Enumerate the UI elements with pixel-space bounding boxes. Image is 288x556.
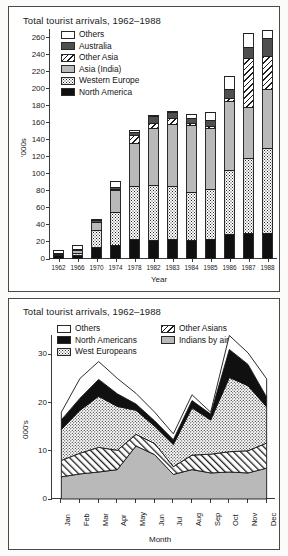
bottom-x-tick — [247, 499, 248, 503]
bottom-x-tick — [135, 499, 136, 503]
top-y-tick-label: 100 — [15, 170, 45, 178]
table-row[interactable] — [91, 29, 103, 259]
top-y-tick — [46, 190, 50, 191]
top-y-tick — [46, 259, 50, 260]
top-y-tick — [46, 241, 50, 242]
table-row[interactable] — [129, 29, 141, 259]
bar-segment-western-europe — [224, 170, 236, 235]
bar-segment-australia — [243, 47, 255, 58]
top-y-tick — [46, 173, 50, 174]
top-x-tick — [211, 259, 212, 262]
bar-segment-others — [129, 130, 141, 132]
figure-page: Total tourist arrivals, 1962–1988 Others… — [0, 0, 288, 556]
bar-segment-asia-india — [72, 250, 84, 253]
bar-segment-asia-india — [129, 143, 141, 186]
bottom-x-axis-label: Month — [149, 535, 171, 544]
bar-segment-western-europe — [148, 185, 160, 240]
table-row[interactable] — [148, 29, 160, 259]
bar-segment-western-europe — [186, 192, 198, 241]
bar-segment-western-europe — [110, 212, 122, 244]
top-x-tick — [173, 259, 174, 262]
top-y-tick-label: 200 — [15, 85, 45, 93]
bar-segment-australia — [110, 187, 122, 190]
top-y-tick-label: 60 — [15, 204, 45, 212]
bottom-x-tick-label: Jun — [157, 514, 166, 526]
bar-segment-asia-india — [167, 124, 179, 185]
bar-segment-western-europe — [167, 186, 179, 240]
bar-segment-other-asia — [167, 118, 179, 125]
top-y-tick-label: 220 — [15, 68, 45, 76]
top-x-tick — [192, 259, 193, 262]
table-row[interactable] — [186, 29, 198, 259]
bar-segment-australia — [72, 249, 84, 250]
table-row[interactable] — [72, 29, 84, 259]
table-row[interactable] — [167, 29, 179, 259]
bottom-y-tick — [48, 499, 52, 500]
top-y-tick-label: 240 — [15, 51, 45, 59]
bar-segment-north-america — [224, 234, 236, 259]
bar-segment-australia — [129, 132, 141, 135]
bottom-x-tick-label: Mar — [101, 513, 110, 526]
table-row[interactable] — [243, 29, 255, 259]
bar-segment-north-america — [91, 247, 103, 259]
bottom-area-series-group — [52, 335, 276, 499]
bottom-y-tick-label: 10 — [19, 447, 47, 455]
bar-segment-other-asia — [262, 56, 274, 88]
bar-segment-other-asia — [110, 189, 122, 190]
top-y-tick-label: 160 — [15, 119, 45, 127]
bar-segment-other-asia — [129, 135, 141, 143]
bottom-x-tick-label: Dec — [269, 513, 278, 526]
bottom-y-tick — [48, 354, 52, 355]
bar-segment-north-america — [110, 245, 122, 259]
bar-segment-north-america — [148, 240, 160, 259]
bar-segment-asia-india — [110, 190, 122, 212]
bar-segment-others — [167, 111, 179, 113]
bar-segment-western-europe — [129, 186, 141, 239]
bar-segment-other-asia — [186, 123, 198, 126]
bottom-x-tick — [191, 499, 192, 503]
bottom-x-tick — [266, 499, 267, 503]
bottom-x-tick — [172, 499, 173, 503]
table-row[interactable] — [53, 29, 65, 259]
bottom-x-tick-label: Apr — [119, 514, 128, 526]
table-row[interactable] — [205, 29, 217, 259]
legend-swatch-others-icon — [57, 325, 71, 333]
bar-segment-other-asia — [148, 123, 160, 128]
top-y-tick — [46, 122, 50, 123]
legend-item-others: Others — [57, 323, 137, 335]
bar-segment-others — [72, 245, 84, 248]
legend-label-other-asians: Other Asians — [179, 324, 227, 333]
bar-segment-australia — [148, 116, 160, 123]
bar-segment-australia — [224, 89, 236, 98]
table-row[interactable] — [110, 29, 122, 259]
top-y-tick — [46, 139, 50, 140]
bar-segment-north-america — [205, 239, 217, 259]
bottom-x-tick-label: Feb — [82, 513, 91, 526]
bar-segment-others — [91, 219, 103, 220]
bar-segment-north-america — [167, 239, 179, 259]
top-y-tick-label: 80 — [15, 187, 45, 195]
top-x-tick — [135, 259, 136, 262]
bar-segment-asia-india — [205, 128, 217, 189]
top-y-tick — [46, 224, 50, 225]
bottom-y-tick-label: 20 — [19, 399, 47, 407]
table-row[interactable] — [262, 29, 274, 259]
bar-segment-other-asia — [224, 98, 236, 101]
bar-segment-other-asia — [243, 58, 255, 107]
bar-segment-others — [186, 114, 198, 118]
bar-segment-asia-india — [224, 101, 236, 170]
legend-item-other-asians: Other Asians — [161, 323, 229, 335]
table-row[interactable] — [224, 29, 236, 259]
bar-segment-others — [148, 115, 160, 116]
bottom-x-tick — [228, 499, 229, 503]
bottom-y-axis-label: 000's — [21, 420, 30, 439]
bottom-x-tick — [98, 499, 99, 503]
bottom-x-tick — [60, 499, 61, 503]
bar-segment-others — [243, 33, 255, 47]
top-y-axis-label: '000s — [19, 138, 28, 157]
top-x-tick — [268, 259, 269, 262]
bottom-x-tick — [79, 499, 80, 503]
bar-segment-others — [110, 181, 122, 186]
top-y-tick — [46, 105, 50, 106]
bar-segment-others — [53, 250, 65, 253]
